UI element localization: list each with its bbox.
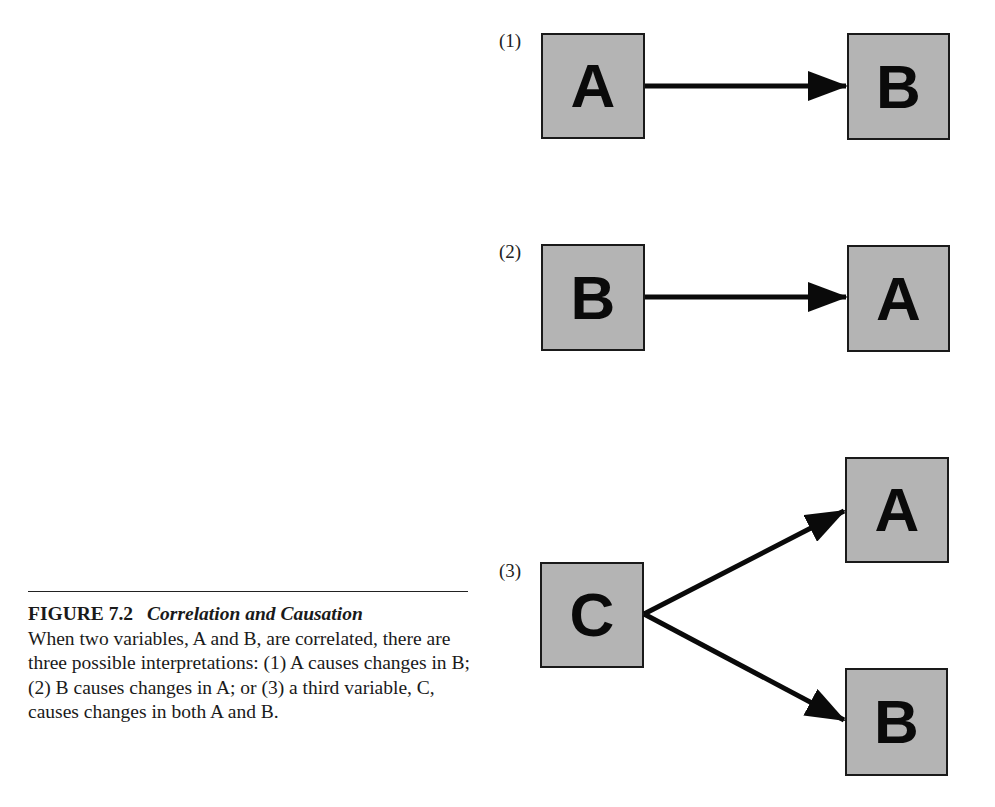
arrow-panel-3-c-to-b (644, 614, 844, 720)
figure-title: Correlation and Causation (147, 603, 363, 624)
caption-divider (28, 591, 468, 592)
correlation-causation-diagram: (1) A B (2) B A (3) C A B FIGURE 7.2Corr… (0, 0, 995, 807)
arrow-panel-3-c-to-a (644, 511, 844, 614)
figure-caption: FIGURE 7.2Correlation and Causation When… (28, 602, 473, 725)
caption-body: When two variables, A and B, are correla… (28, 628, 470, 723)
figure-number: FIGURE 7.2 (28, 603, 133, 624)
